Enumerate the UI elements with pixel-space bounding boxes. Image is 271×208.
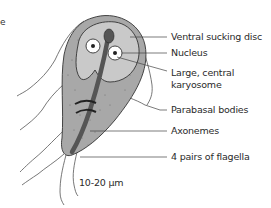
- label-scale: 10-20 µm: [79, 178, 123, 188]
- label-flagella: 4 pairs of flagella: [171, 152, 250, 162]
- nucleus-left: [86, 39, 100, 53]
- label-parabasal-bodies: Parabasal bodies: [171, 105, 248, 115]
- label-karyosome-line1: Large, central: [171, 68, 234, 78]
- label-karyosome-line2: karyosome: [171, 80, 222, 90]
- label-nucleus: Nucleus: [171, 48, 207, 58]
- median-body: [104, 29, 114, 43]
- label-axonemes: Axonemes: [171, 126, 219, 136]
- label-ventral-sucking-disc: Ventral sucking disc: [171, 32, 262, 42]
